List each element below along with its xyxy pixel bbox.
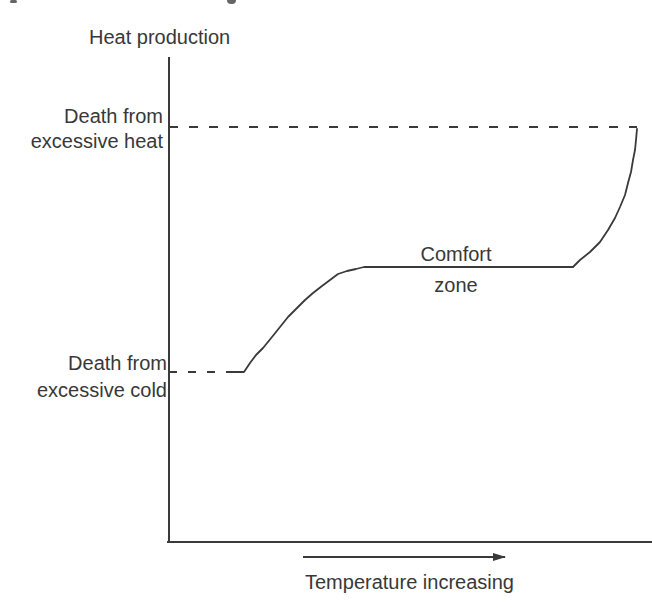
death-excessive-heat-label: Death from excessive heat (31, 104, 163, 154)
x-axis-label: Temperature increasing (305, 570, 514, 595)
heat-production-figure: Heat production Death from excessive hea… (0, 0, 652, 610)
comfort-zone-label: Comfort zone (396, 239, 516, 301)
y-axis-label: Heat production (89, 25, 230, 50)
chart-canvas (0, 0, 652, 610)
death-excessive-cold-label: Death from excessive cold (37, 350, 167, 404)
